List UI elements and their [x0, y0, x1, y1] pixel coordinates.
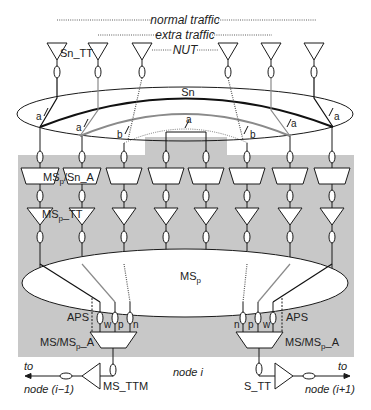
- to-right: to: [338, 360, 347, 372]
- ms-ttm-label: MS_TTM: [103, 380, 148, 392]
- n-right: n: [234, 319, 240, 330]
- n-left: n: [133, 319, 139, 330]
- a-label-1: a: [36, 111, 42, 122]
- node-prev: node (i−1): [24, 383, 74, 395]
- node-next: node (i+1): [305, 383, 355, 395]
- a-label-5: a: [334, 111, 340, 122]
- b-label-2: b: [250, 129, 256, 140]
- legend-nut: NUT: [173, 43, 199, 57]
- w-left: w: [103, 319, 112, 330]
- sn-tt-label: Sn_TT: [60, 47, 93, 59]
- sdh-node-diagram: normal traffic extra traffic NUT Sn_TT S…: [0, 0, 371, 410]
- legend-extra-traffic: extra traffic: [155, 28, 214, 42]
- sn-label: Sn: [181, 86, 194, 98]
- s-tt-label: S_TT: [244, 380, 271, 392]
- legend-normal-traffic: normal traffic: [150, 13, 219, 27]
- a-label-4: a: [291, 118, 297, 129]
- aps-left: APS: [67, 311, 89, 323]
- aps-right: APS: [286, 311, 308, 323]
- node-i: node i: [173, 366, 204, 378]
- b-label-1: b: [117, 129, 123, 140]
- p-right: p: [248, 319, 254, 330]
- p-left: p: [118, 319, 124, 330]
- a-label-3: a: [186, 114, 192, 125]
- w-right: w: [262, 319, 271, 330]
- to-left: to: [24, 360, 33, 372]
- a-label-2: a: [76, 122, 82, 133]
